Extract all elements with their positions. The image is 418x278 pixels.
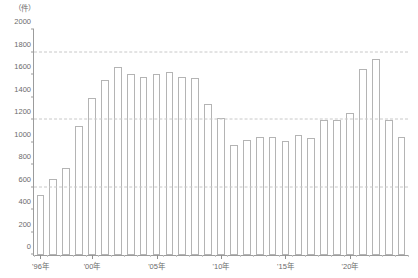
x-axis-minor-tick [47, 255, 48, 257]
x-axis-minor-tick [331, 255, 332, 257]
bar [282, 141, 290, 255]
y-axis-tick-label: 400 [0, 197, 31, 206]
y-axis-tick-label: 600 [0, 174, 31, 183]
x-axis-minor-tick [382, 255, 383, 257]
x-axis-minor-tick [137, 255, 138, 257]
bar-chart: （件） 020040060080010001200140016001800200… [0, 0, 418, 278]
x-axis-tick-label: '10年 [213, 260, 230, 271]
bar [62, 168, 70, 255]
bar [178, 77, 186, 255]
x-axis-minor-tick [73, 255, 74, 257]
bar [230, 145, 238, 255]
y-axis-unit-label: （件） [14, 2, 35, 13]
x-axis-tick-mark [221, 255, 222, 259]
x-axis-minor-tick [318, 255, 319, 257]
x-axis-minor-tick [86, 255, 87, 257]
x-axis-ticks: '96年'00年'05年'10年'15年'20年 [34, 255, 408, 277]
bar [256, 137, 264, 255]
y-axis-tick-label: 1000 [0, 129, 31, 138]
x-axis-tick-mark [350, 255, 351, 259]
x-axis-minor-tick [292, 255, 293, 257]
x-axis-tick-mark [92, 255, 93, 259]
y-axis-tick-label: 1200 [0, 107, 31, 116]
y-axis-tick-label: 1600 [0, 62, 31, 71]
bar [398, 137, 406, 255]
x-axis-minor-tick [202, 255, 203, 257]
gridline [34, 119, 408, 120]
y-axis-tick-mark [31, 96, 34, 97]
plot-area: 0200400600800100012001400160018002000 [34, 30, 408, 255]
bar [101, 80, 109, 256]
y-axis-tick-mark [31, 141, 34, 142]
x-axis-tick-label: '05年 [148, 260, 165, 271]
x-axis-tick-label: '96年 [32, 260, 49, 271]
x-axis-minor-tick [266, 255, 267, 257]
x-axis-minor-tick [408, 255, 409, 257]
x-axis-minor-tick [34, 255, 35, 257]
bar [88, 98, 96, 255]
bar [37, 195, 45, 255]
x-axis-minor-tick [369, 255, 370, 257]
x-axis-tick-mark [40, 255, 41, 259]
x-axis-minor-tick [227, 255, 228, 257]
y-axis-tick-label: 1800 [0, 39, 31, 48]
bar [346, 113, 354, 255]
y-axis-tick-mark [31, 231, 34, 232]
x-axis-minor-tick [215, 255, 216, 257]
y-axis-tick-mark [31, 74, 34, 75]
x-axis-minor-tick [98, 255, 99, 257]
x-axis-minor-tick [305, 255, 306, 257]
x-axis-minor-tick [111, 255, 112, 257]
x-axis-minor-tick [395, 255, 396, 257]
x-axis-minor-tick [189, 255, 190, 257]
bar [191, 78, 199, 255]
x-axis-minor-tick [253, 255, 254, 257]
bar [75, 126, 83, 255]
bar [269, 137, 277, 255]
bar [320, 120, 328, 255]
x-axis-minor-tick [240, 255, 241, 257]
bar [359, 69, 367, 255]
x-axis-minor-tick [279, 255, 280, 257]
bar [243, 140, 251, 255]
x-axis-minor-tick [150, 255, 151, 257]
bar [127, 74, 135, 255]
gridline [34, 186, 408, 187]
bar [49, 179, 57, 255]
y-axis-tick-label: 2000 [0, 17, 31, 26]
bar [307, 138, 315, 255]
y-axis-tick-label: 0 [0, 242, 31, 251]
y-axis-tick-mark [31, 164, 34, 165]
x-axis-minor-tick [176, 255, 177, 257]
bar [140, 77, 148, 255]
x-axis-tick-mark [157, 255, 158, 259]
y-axis-tick-mark [31, 209, 34, 210]
bars-layer [34, 30, 408, 255]
x-axis-tick-label: '15年 [277, 260, 294, 271]
bar [166, 72, 174, 255]
x-axis-minor-tick [163, 255, 164, 257]
x-axis-tick-mark [285, 255, 286, 259]
x-axis-tick-label: '20年 [342, 260, 359, 271]
y-axis-tick-label: 1400 [0, 84, 31, 93]
x-axis-tick-label: '00年 [84, 260, 101, 271]
bar [333, 120, 341, 255]
bar [153, 74, 161, 255]
y-axis-tick-label: 800 [0, 152, 31, 161]
x-axis-minor-tick [124, 255, 125, 257]
bar [114, 67, 122, 255]
x-axis-minor-tick [344, 255, 345, 257]
x-axis-minor-tick [356, 255, 357, 257]
bar [372, 59, 380, 255]
bar [204, 104, 212, 255]
bar [385, 120, 393, 255]
bar [295, 135, 303, 255]
x-axis-minor-tick [60, 255, 61, 257]
y-axis-tick-mark [31, 29, 34, 30]
gridline [34, 51, 408, 52]
y-axis-tick-label: 200 [0, 219, 31, 228]
